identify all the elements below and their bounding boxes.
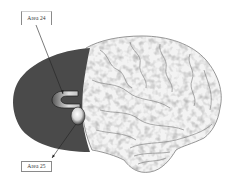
medial-cutaway-region	[13, 48, 90, 152]
brain-diagram	[0, 0, 237, 186]
area-25-label: Area 25	[21, 161, 52, 172]
area-25-region	[71, 107, 85, 125]
area-24-label: Area 24	[21, 11, 52, 25]
area-25-arrowhead	[52, 154, 55, 158]
brain-lateral-surface	[80, 30, 230, 180]
